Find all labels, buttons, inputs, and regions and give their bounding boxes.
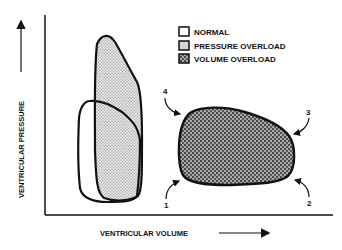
y-axis-label-group: VENTRICULAR PRESSURE [17,22,26,198]
normal-swatch-icon [179,27,189,36]
point-label-1: 1 [164,201,169,210]
legend-label-normal: NORMAL [194,28,229,37]
legend-item-volume-overload: VOLUME OVERLOAD [179,54,276,64]
point-label-2: 2 [307,199,312,208]
point-2-arrow-icon [295,180,309,197]
pressure-overload-loop [95,36,142,201]
pressure-volume-diagram: VENTRICULAR PRESSURE VENTRICULAR VOLUME … [0,0,342,250]
point-2: 2 [295,180,312,208]
x-axis-label: VENTRICULAR VOLUME [100,229,188,238]
point-4-arrow-icon [165,98,180,114]
legend-label-volume-overload: VOLUME OVERLOAD [194,55,276,64]
legend: NORMAL PRESSURE OVERLOAD VOLUME OVERLOAD [179,27,286,64]
legend-label-pressure-overload: PRESSURE OVERLOAD [194,42,286,51]
point-3-arrow-icon [294,118,309,134]
x-axis-label-group: VENTRICULAR VOLUME [100,229,268,238]
point-label-4: 4 [163,87,168,96]
volume-overload-loop [179,108,294,185]
point-3: 3 [294,108,311,134]
point-4: 4 [163,87,180,114]
point-1: 1 [164,181,179,210]
pressure-overload-swatch-icon [179,41,189,50]
legend-item-pressure-overload: PRESSURE OVERLOAD [179,41,286,51]
point-label-3: 3 [306,108,311,117]
legend-item-normal: NORMAL [179,27,229,37]
volume-overload-swatch-icon [179,54,189,63]
y-axis-label: VENTRICULAR PRESSURE [17,101,26,198]
point-1-arrow-icon [166,181,179,199]
